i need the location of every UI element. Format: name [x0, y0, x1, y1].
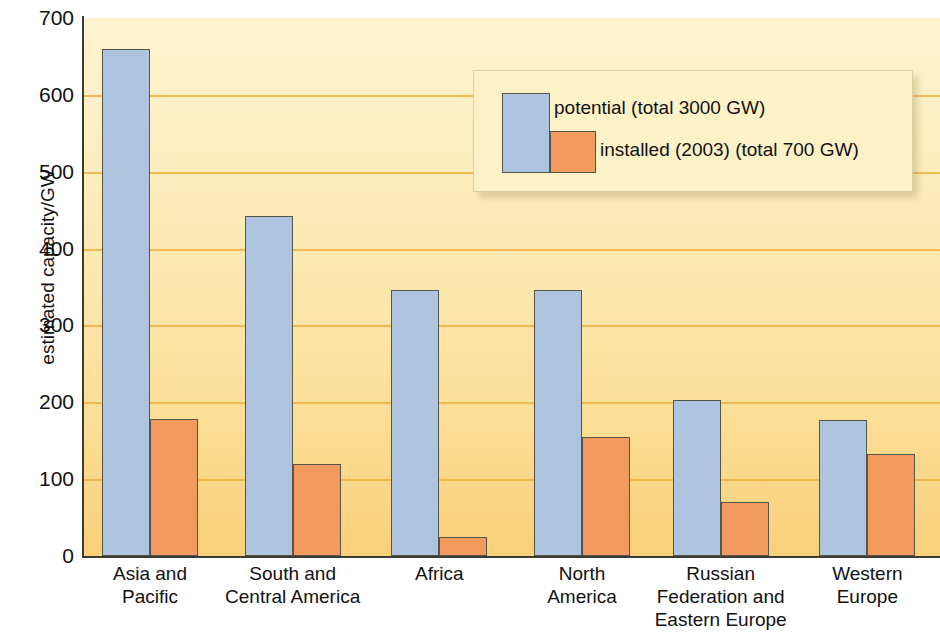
gridline: [84, 325, 940, 327]
legend-swatch-potential: [502, 93, 550, 173]
bar-potential: [102, 49, 150, 556]
x-axis-tick-label-line: Eastern Europe: [611, 608, 831, 631]
bar-installed: [582, 437, 630, 556]
legend: potential (total 3000 GW) installed (200…: [473, 70, 913, 192]
bar-installed: [293, 464, 341, 556]
bar-potential: [819, 420, 867, 556]
x-axis-tick-labels: Asia andPacificSouth andCentral AmericaA…: [84, 560, 940, 632]
x-axis-tick-label: WesternEurope: [757, 562, 940, 608]
bar-potential: [534, 290, 582, 556]
bar-chart: estimated capacity/GW 700600500400300200…: [0, 0, 940, 632]
y-axis-tick-label: 600: [18, 84, 74, 105]
y-axis-tick-label: 400: [18, 238, 74, 259]
bar-installed: [439, 537, 487, 556]
y-axis-tick-label: 300: [18, 314, 74, 335]
bar-installed: [150, 419, 198, 556]
gridline: [84, 249, 940, 251]
gridline: [84, 402, 940, 404]
y-axis-tick-label: 700: [18, 7, 74, 28]
x-axis-tick-label-line: Central America: [183, 585, 403, 608]
y-axis-tick-label: 500: [18, 161, 74, 182]
x-axis-tick-label-line: Europe: [757, 585, 940, 608]
legend-label-potential: potential (total 3000 GW): [554, 97, 765, 119]
y-axis-tick-label: 100: [18, 468, 74, 489]
bar-potential: [391, 290, 439, 556]
bar-installed: [867, 454, 915, 556]
y-axis-line: [82, 16, 84, 558]
gridline: [84, 479, 940, 481]
bar-potential: [673, 400, 721, 556]
legend-swatch-installed: [550, 131, 596, 173]
legend-label-installed: installed (2003) (total 700 GW): [600, 139, 859, 161]
x-axis-tick-label-line: Western: [757, 562, 940, 585]
x-axis-line: [82, 556, 940, 558]
bar-group: [102, 18, 198, 556]
bar-potential: [245, 216, 293, 556]
bar-installed: [721, 502, 769, 556]
y-axis-tick-labels: 7006005004003002001000: [18, 0, 74, 632]
bar-group: [245, 18, 341, 556]
y-axis-tick-label: 200: [18, 391, 74, 412]
